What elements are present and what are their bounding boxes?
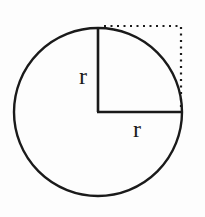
circle-diagram: r r: [0, 0, 205, 217]
horizontal-radius-label: r: [133, 116, 141, 142]
vertical-radius-label: r: [79, 63, 87, 89]
